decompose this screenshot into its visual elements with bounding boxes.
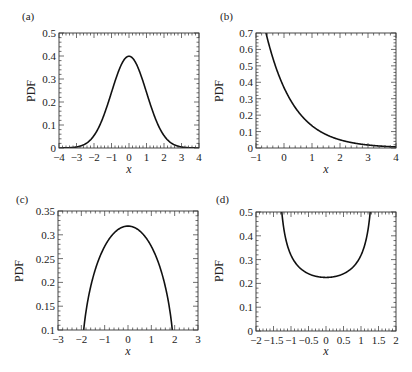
panel-label-c: (c) (16, 193, 29, 206)
x-tick-label: 1 (149, 333, 155, 345)
x-tick-label: 2 (393, 334, 399, 346)
panel-label-d: (d) (216, 193, 229, 206)
y-tick-label: 0.2 (41, 276, 55, 288)
x-tick-label: 0.5 (337, 334, 351, 346)
x-tick-label: −1 (106, 151, 118, 163)
panel-a-ylabel: PDF (24, 80, 38, 102)
panel-d-ylabel: PDF (212, 260, 226, 282)
x-tick-label: −2 (88, 151, 100, 163)
y-tick-label: 0.5 (42, 27, 56, 39)
panel-b-ylabel: PDF (212, 80, 226, 102)
x-tick-label: −1 (99, 333, 111, 345)
panel-label-a: (a) (22, 10, 35, 23)
y-tick-label: 0.5 (239, 60, 253, 72)
x-tick-label: 1 (358, 334, 364, 346)
x-tick-label: 3 (179, 151, 185, 163)
panel-c-ylabel: PDF (12, 260, 26, 282)
panel-label-b: (b) (220, 10, 233, 23)
panel-c-xlabel: x (124, 344, 131, 358)
y-tick-label: 0 (248, 325, 254, 337)
y-tick-label: 0.3 (42, 73, 56, 85)
y-tick-label: 0.1 (239, 301, 253, 313)
pdf-curve (256, 0, 396, 147)
y-tick-label: 0.1 (42, 119, 56, 131)
panel-a-xlabel: x (125, 162, 132, 176)
x-tick-label: −0.5 (299, 334, 319, 346)
panel-a-axes: −4−3−2−10123400.10.20.30.40.5 (42, 27, 202, 163)
x-tick-label: 1 (309, 151, 315, 163)
y-tick-label: 0.4 (239, 230, 253, 242)
plot-frame (59, 33, 199, 148)
y-tick-label: 0.5 (239, 206, 253, 218)
plot-frame (58, 211, 198, 330)
x-tick-label: 4 (196, 151, 202, 163)
y-tick-label: 0.6 (239, 43, 253, 55)
panel-c: (c) −3−2−101230.10.150.20.250.30.35 PDF … (12, 193, 201, 367)
panel-d-xlabel: x (322, 344, 329, 358)
figure-canvas: (a) −4−3−2−10123400.10.20.30.40.5 PDF x … (0, 0, 412, 372)
x-tick-label: 3 (195, 333, 201, 345)
x-tick-label: 1 (144, 151, 150, 163)
x-tick-label: 3 (365, 151, 371, 163)
y-tick-label: 0.25 (36, 253, 56, 265)
pdf-curve (277, 93, 376, 277)
x-tick-label: 2 (161, 151, 167, 163)
x-tick-label: 4 (393, 151, 399, 163)
y-tick-label: 0.15 (36, 300, 56, 312)
x-tick-label: 0 (281, 151, 287, 163)
x-tick-label: −1 (285, 334, 297, 346)
y-tick-label: 0 (248, 142, 254, 154)
y-tick-label: 0.3 (239, 93, 253, 105)
y-tick-label: 0.35 (36, 205, 56, 217)
panel-b-axes: −10123400.10.20.30.40.50.60.7 (239, 0, 399, 163)
panel-b-xlabel: x (322, 162, 329, 176)
y-tick-label: 0.2 (239, 277, 253, 289)
panel-c-axes: −3−2−101230.10.150.20.250.30.35 (36, 205, 202, 367)
y-tick-label: 0.2 (239, 109, 253, 121)
y-tick-label: 0 (51, 142, 57, 154)
y-tick-label: 0.4 (42, 50, 56, 62)
x-tick-label: 2 (172, 333, 178, 345)
pdf-curve (59, 56, 199, 148)
x-tick-label: 1.5 (372, 334, 386, 346)
y-tick-label: 0.1 (41, 324, 55, 336)
y-tick-label: 0.1 (239, 126, 253, 138)
plot-frame (256, 212, 396, 331)
y-tick-label: 0.3 (41, 229, 55, 241)
x-tick-label: −2 (75, 333, 87, 345)
y-tick-label: 0.2 (42, 96, 56, 108)
panel-b: (b) −10123400.10.20.30.40.50.60.7 PDF x (212, 0, 399, 176)
x-tick-label: −3 (71, 151, 83, 163)
y-tick-label: 0.4 (239, 76, 253, 88)
panel-a: (a) −4−3−2−10123400.10.20.30.40.5 PDF x (22, 10, 202, 176)
y-tick-label: 0.7 (239, 27, 253, 39)
y-tick-label: 0.3 (239, 254, 253, 266)
x-tick-label: 2 (337, 151, 343, 163)
x-tick-label: −1.5 (264, 334, 284, 346)
plot-frame (256, 33, 396, 148)
